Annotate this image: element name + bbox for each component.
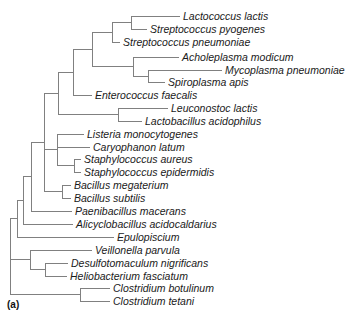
taxon-label: Acholeplasma modicum bbox=[182, 52, 293, 63]
taxon-label: Clostridium botulinum bbox=[113, 283, 214, 294]
taxon-label: Leuconostoc lactis bbox=[171, 103, 257, 114]
taxon-label: Veillonella parvula bbox=[95, 245, 180, 256]
taxon-label: Streptococcus pyogenes bbox=[150, 24, 265, 35]
taxon-label: Paenibacillus macerans bbox=[75, 206, 186, 217]
taxon-label: Lactococcus lactis bbox=[183, 11, 268, 22]
taxon-label: Staphylococcus epidermidis bbox=[84, 167, 214, 178]
taxon-label: Staphylococcus aureus bbox=[84, 154, 193, 165]
figure-panel: Lactococcus lactisStreptococcus pyogenes… bbox=[0, 0, 359, 320]
taxon-label: Lactobacillus acidophilus bbox=[145, 116, 261, 127]
taxon-label: Mycoplasma pneumoniae bbox=[225, 65, 345, 76]
taxon-label: Bacillus megaterium bbox=[74, 180, 169, 191]
taxon-label: Clostridium tetani bbox=[113, 296, 194, 307]
taxon-label: Desulfotomaculum nigrificans bbox=[71, 258, 208, 269]
panel-label: (a) bbox=[7, 299, 19, 310]
taxon-label: Listeria monocytogenes bbox=[87, 129, 198, 140]
taxon-label: Caryophanon latum bbox=[93, 142, 185, 153]
taxon-label: Streptococcus pneumoniae bbox=[123, 37, 250, 48]
taxon-label: Enterococcus faecalis bbox=[95, 90, 197, 101]
taxon-label: Heliobacterium fasciatum bbox=[70, 271, 188, 282]
taxon-label: Epulopiscium bbox=[117, 232, 179, 243]
taxon-label: Bacillus subtilis bbox=[74, 193, 145, 204]
taxon-label: Alicyclobacillus acidocaldarius bbox=[76, 219, 217, 230]
taxon-label: Spiroplasma apis bbox=[168, 77, 249, 88]
